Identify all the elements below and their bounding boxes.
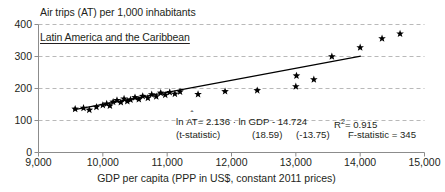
intercept-tstatistic: (-13.75) [296, 129, 330, 142]
hat-accent-icon: ˆ [190, 110, 193, 119]
equation-lhs: ln ˆAT= 2.136 · ln GDP - 14.724 [176, 116, 307, 129]
data-point-star [356, 44, 364, 51]
data-point-star [310, 76, 318, 83]
data-point-star [328, 53, 336, 60]
x-axis-tick-label: 15,000 [397, 156, 445, 168]
at-hat-group: ˆAT [186, 116, 198, 129]
data-point-star [378, 35, 386, 42]
x-axis-tick-label: 14,000 [332, 156, 388, 168]
r-squared-label: R [334, 119, 341, 130]
tstatistic-label: (t-statistic) [176, 129, 220, 142]
data-point-star [253, 86, 261, 93]
x-axis-tick-label: 12,000 [204, 156, 260, 168]
y-axis-tick-label: 200 [0, 82, 32, 94]
f-statistic: F-statistic = 345 [348, 129, 416, 142]
x-axis-label: GDP per capita (PPP in US$, constant 201… [0, 172, 433, 184]
data-point-star [194, 90, 202, 97]
data-point-star [93, 103, 101, 110]
x-axis-tick-label: 10,000 [75, 156, 131, 168]
data-point-star [176, 88, 184, 95]
data-point-star [71, 105, 79, 112]
x-axis-tick-label: 13,000 [268, 156, 324, 168]
y-axis-tick-label: 300 [0, 50, 32, 62]
data-point-star [396, 30, 404, 37]
slope-tstatistic: (18.59) [252, 129, 282, 142]
region-annotation: Latin America and the Caribbean [40, 31, 190, 43]
data-point-star [80, 104, 88, 111]
x-axis-tick-label: 9,000 [11, 156, 67, 168]
chart-title: Air trips (AT) per 1,000 inhabitants [40, 6, 196, 18]
x-axis-tick-label: 11,000 [139, 156, 195, 168]
y-axis-tick-label: 400 [0, 18, 32, 30]
equation-rhs: = 2.136 · ln GDP - 14.724 [198, 116, 307, 127]
y-axis-tick-label: 100 [0, 114, 32, 126]
data-point-star [293, 72, 301, 79]
ln-prefix: ln [176, 116, 186, 127]
